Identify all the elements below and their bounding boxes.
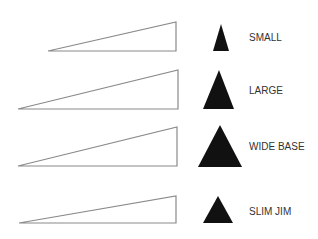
solid-triangle-slim-jim [203, 196, 233, 223]
solid-triangle-small [213, 24, 229, 51]
solid-triangle-wide-base [198, 125, 242, 167]
outline-triangle-large [18, 70, 178, 109]
solid-triangle-large [203, 70, 234, 109]
label-slim-jim: SLIM JIM [249, 207, 291, 217]
label-large: LARGE [249, 86, 283, 96]
outline-triangle-slim-jim [19, 196, 176, 223]
label-wide-base: WIDE BASE [249, 142, 305, 152]
outline-triangle-small [48, 22, 176, 51]
outline-triangle-wide-base [18, 127, 177, 166]
label-small: SMALL [249, 33, 282, 43]
